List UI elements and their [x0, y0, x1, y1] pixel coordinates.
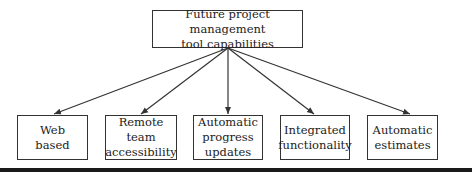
- node-integrated-functionality: Integratedfunctionality: [280, 115, 350, 160]
- node-automatic-progress-updates: Automaticprogressupdates: [193, 115, 263, 160]
- node-text: functionality: [278, 138, 351, 152]
- bottom-rule: [0, 168, 472, 172]
- node-automatic-estimates: Automaticestimates: [367, 115, 438, 160]
- root-line2: tool capabilities: [181, 37, 274, 51]
- arrow-to-automatic-estimates: [228, 48, 410, 114]
- node-text: progress: [202, 130, 253, 144]
- arrow-to-remote-team: [141, 48, 228, 114]
- node-remote-team-accessibility: Remote teamaccessibility: [105, 115, 177, 160]
- node-text: Automatic: [198, 115, 258, 129]
- node-text: estimates: [374, 138, 430, 152]
- node-text: based: [35, 138, 69, 152]
- node-text: Integrated: [284, 123, 346, 137]
- node-text: Remote team: [119, 115, 164, 144]
- arrow-to-web-based: [54, 48, 228, 114]
- node-web-based: Webbased: [17, 115, 88, 160]
- node-text: Web: [40, 123, 65, 137]
- node-text: Automatic: [373, 123, 433, 137]
- node-text: accessibility: [105, 145, 177, 159]
- root-line1: Future project management: [185, 7, 270, 36]
- node-text: updates: [205, 145, 251, 159]
- root-node: Future project managementtool capabiliti…: [152, 10, 303, 48]
- arrow-to-integrated: [228, 48, 314, 114]
